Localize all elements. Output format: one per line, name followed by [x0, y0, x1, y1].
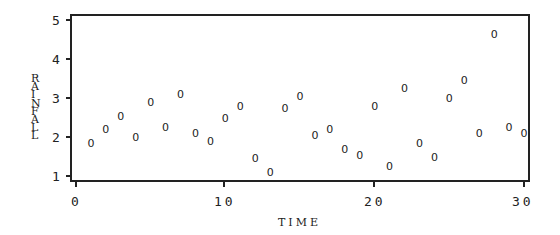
data-point: 0	[431, 151, 438, 164]
data-point: 0	[147, 96, 154, 109]
y-tick-label: 5	[52, 13, 60, 28]
data-point: 0	[207, 135, 214, 148]
data-point: 0	[282, 102, 289, 115]
x-tick-labels: 0 10 20 30	[71, 194, 534, 209]
x-tick-label: 10	[214, 194, 236, 209]
data-point: 0	[162, 121, 169, 134]
data-point: 0	[117, 110, 124, 123]
data-point: 0	[102, 123, 109, 136]
data-point: 0	[311, 129, 318, 142]
data-point: 0	[401, 82, 408, 95]
data-point: 0	[521, 127, 528, 140]
data-points: 000000000000000000000000000000	[87, 28, 527, 179]
data-point: 0	[132, 131, 139, 144]
x-tick-label: 30	[512, 194, 534, 209]
data-point: 0	[491, 28, 498, 41]
data-point: 0	[476, 127, 483, 140]
data-point: 0	[416, 137, 423, 150]
data-point: 0	[326, 123, 333, 136]
y-tick-label: 4	[52, 52, 60, 67]
data-point: 0	[446, 92, 453, 105]
data-point: 0	[506, 121, 513, 134]
y-tick-label: 3	[52, 91, 60, 106]
data-point: 0	[192, 127, 199, 140]
y-tick-label: 2	[52, 130, 60, 145]
x-tick-label: 0	[71, 194, 79, 209]
data-point: 0	[341, 143, 348, 156]
data-point: 0	[252, 152, 259, 165]
data-point: 0	[297, 90, 304, 103]
data-point: 0	[87, 137, 94, 150]
y-tick-labels: 5 4 3 2 1	[52, 13, 60, 184]
y-axis-title-letter: L	[31, 129, 39, 142]
data-point: 0	[386, 160, 393, 173]
data-point: 0	[371, 100, 378, 113]
y-tick-label: 1	[52, 169, 60, 184]
scatter-chart: 5 4 3 2 1 0 10 20 30 TIME RAINFALL 00000…	[0, 0, 560, 235]
x-axis-title: TIME	[278, 216, 321, 229]
data-point: 0	[177, 88, 184, 101]
data-point: 0	[237, 100, 244, 113]
data-point: 0	[461, 74, 468, 87]
data-point: 0	[222, 112, 229, 125]
y-axis-title: RAINFALL	[30, 72, 41, 142]
data-point: 0	[267, 166, 274, 179]
data-point: 0	[356, 149, 363, 162]
x-tick-label: 20	[364, 194, 386, 209]
